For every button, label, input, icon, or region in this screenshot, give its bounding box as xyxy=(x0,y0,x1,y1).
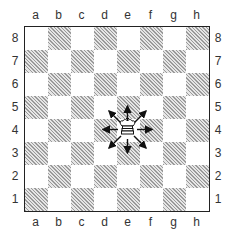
file-label-h: h xyxy=(185,8,208,22)
rank-label-3: 3 xyxy=(8,146,22,160)
file-label-c: c xyxy=(70,8,93,22)
rank-label-8: 8 xyxy=(8,31,22,45)
rank-label-5: 5 xyxy=(211,100,225,114)
arrow-up-right-icon xyxy=(134,111,146,123)
rank-label-7: 7 xyxy=(8,54,22,68)
rank-label-2: 2 xyxy=(211,169,225,183)
file-label-b: b xyxy=(47,215,70,229)
file-label-f: f xyxy=(139,8,162,22)
rank-label-5: 5 xyxy=(8,100,22,114)
rank-label-4: 4 xyxy=(8,123,22,137)
rank-label-6: 6 xyxy=(8,77,22,91)
rank-label-6: 6 xyxy=(211,77,225,91)
rank-label-7: 7 xyxy=(211,54,225,68)
rank-label-4: 4 xyxy=(211,123,225,137)
rank-label-2: 2 xyxy=(8,169,22,183)
file-label-g: g xyxy=(162,215,185,229)
file-label-c: c xyxy=(70,215,93,229)
file-label-b: b xyxy=(47,8,70,22)
rank-label-8: 8 xyxy=(211,31,225,45)
file-label-e: e xyxy=(116,215,139,229)
arrow-up-left-icon xyxy=(109,111,121,123)
file-label-a: a xyxy=(24,8,47,22)
rank-label-1: 1 xyxy=(8,192,22,206)
file-label-d: d xyxy=(93,215,116,229)
arrow-down-left-icon xyxy=(109,136,121,148)
file-label-g: g xyxy=(162,8,185,22)
king-moves-overlay xyxy=(24,26,208,210)
file-label-a: a xyxy=(24,215,47,229)
rank-label-1: 1 xyxy=(211,192,225,206)
file-label-f: f xyxy=(139,215,162,229)
file-label-h: h xyxy=(185,215,208,229)
white-king-icon xyxy=(120,117,135,134)
rank-label-3: 3 xyxy=(211,146,225,160)
file-label-d: d xyxy=(93,8,116,22)
file-label-e: e xyxy=(116,8,139,22)
arrow-down-right-icon xyxy=(134,136,146,148)
